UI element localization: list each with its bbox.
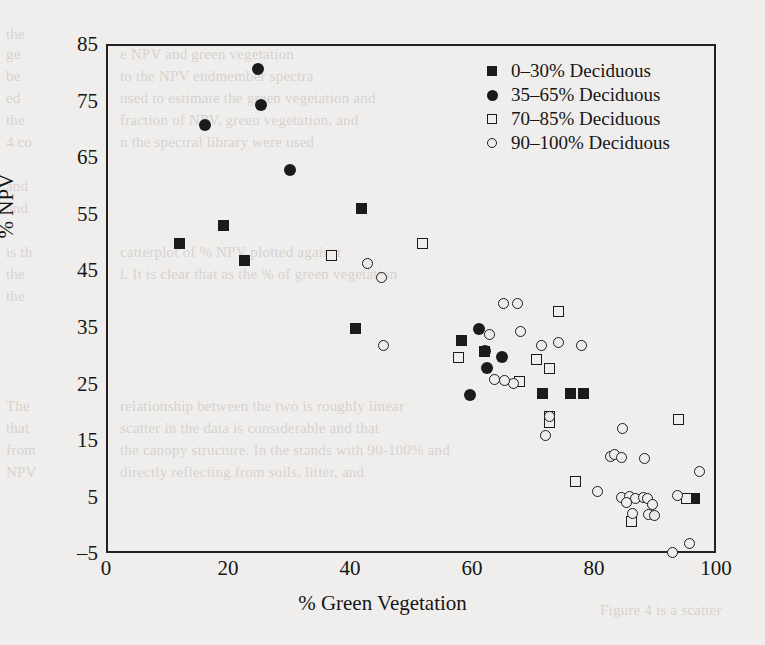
x-tick-60: 60 — [442, 558, 502, 579]
data-point — [453, 352, 464, 363]
data-point — [484, 329, 495, 340]
data-point — [378, 340, 389, 351]
filled-circle-icon — [487, 90, 511, 101]
legend-label-2: 70–85% Deciduous — [511, 107, 660, 131]
data-point — [376, 272, 387, 283]
data-point — [489, 374, 500, 385]
x-tick-20: 20 — [198, 558, 258, 579]
data-point — [647, 499, 658, 510]
data-point — [199, 119, 211, 131]
legend-item-0[interactable]: 0–30% Deciduous — [487, 59, 670, 83]
legend-item-1[interactable]: 35–65% Deciduous — [487, 83, 670, 107]
data-point — [531, 354, 542, 365]
data-point — [537, 388, 548, 399]
data-point — [536, 340, 547, 351]
y-tick-45: 45 — [36, 260, 98, 281]
y-tick-35: 35 — [36, 317, 98, 338]
data-point — [255, 99, 267, 111]
data-point — [570, 476, 581, 487]
data-point — [498, 298, 509, 309]
data-point — [565, 388, 576, 399]
y-tick-25: 25 — [36, 374, 98, 395]
data-point — [553, 337, 564, 348]
data-point — [496, 351, 508, 363]
data-point — [326, 250, 337, 261]
y-tick-5: 5 — [36, 487, 98, 508]
filled-square-icon — [487, 66, 511, 76]
scatter-plot-figure: 85 75 65 55 45 35 25 15 5 –5 0 20 40 60 … — [0, 0, 765, 645]
data-point — [694, 466, 705, 477]
data-point — [284, 164, 296, 176]
legend: 0–30% Deciduous 35–65% Deciduous 70–85% … — [487, 59, 670, 155]
legend-item-2[interactable]: 70–85% Deciduous — [487, 107, 670, 131]
legend-label-3: 90–100% Deciduous — [511, 131, 670, 155]
open-circle-icon — [487, 138, 511, 148]
y-tick-65: 65 — [36, 147, 98, 168]
data-point — [515, 326, 526, 337]
legend-item-3[interactable]: 90–100% Deciduous — [487, 131, 670, 155]
x-axis-label: % Green Vegetation — [0, 591, 765, 616]
data-point — [673, 414, 684, 425]
y-tick-75: 75 — [36, 91, 98, 112]
legend-label-1: 35–65% Deciduous — [511, 83, 660, 107]
data-point — [667, 547, 678, 558]
data-point — [473, 323, 485, 335]
y-tick-15: 15 — [36, 430, 98, 451]
data-point — [481, 362, 493, 374]
data-point — [174, 238, 185, 249]
data-point — [617, 423, 628, 434]
data-point — [639, 453, 650, 464]
data-point — [362, 258, 373, 269]
data-point — [627, 508, 638, 519]
data-point — [578, 388, 589, 399]
data-point — [417, 238, 428, 249]
data-point — [350, 323, 361, 334]
y-axis-label: % NPV — [0, 126, 19, 286]
x-tick-80: 80 — [564, 558, 624, 579]
data-point — [512, 298, 523, 309]
x-tick-40: 40 — [320, 558, 380, 579]
data-point — [576, 340, 587, 351]
data-point — [356, 203, 367, 214]
data-point — [553, 306, 564, 317]
data-point — [592, 486, 603, 497]
data-point — [544, 411, 555, 422]
data-point — [456, 335, 467, 346]
data-point — [616, 452, 627, 463]
data-point — [681, 493, 692, 504]
y-tick-55: 55 — [36, 204, 98, 225]
data-point — [218, 220, 229, 231]
data-point — [252, 63, 264, 75]
data-point — [684, 538, 695, 549]
x-tick-100: 100 — [686, 558, 746, 579]
y-tick-85: 85 — [36, 34, 98, 55]
data-point — [540, 430, 551, 441]
data-point — [649, 510, 660, 521]
open-square-icon — [487, 114, 511, 124]
data-point — [239, 255, 250, 266]
data-point — [621, 497, 632, 508]
data-point — [464, 389, 476, 401]
data-point — [544, 363, 555, 374]
x-tick-0: 0 — [76, 558, 136, 579]
legend-label-0: 0–30% Deciduous — [511, 59, 651, 83]
